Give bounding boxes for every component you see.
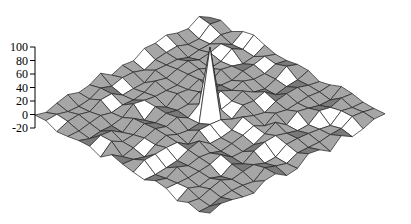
surface-plot: 100806040200-20	[0, 0, 411, 224]
z-tick-label: 80	[16, 54, 28, 68]
z-tick-label: 100	[10, 40, 28, 54]
z-tick-label: 40	[16, 81, 28, 95]
z-axis: 100806040200-20	[10, 40, 35, 135]
z-tick-label: 20	[16, 94, 28, 108]
z-tick-label: 60	[16, 67, 28, 81]
surface-mesh	[35, 16, 385, 213]
z-tick-label: -20	[12, 121, 28, 135]
z-tick-label: 0	[22, 108, 28, 122]
